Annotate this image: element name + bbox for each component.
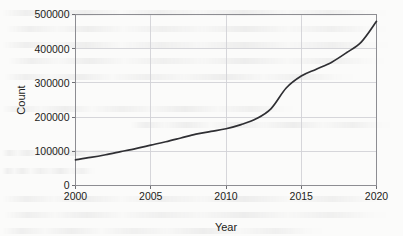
chart-canvas: 0100000200000300000400000500000 20002005… xyxy=(0,0,403,236)
x-tick-label: 2015 xyxy=(290,190,314,202)
y-tick-label: 300000 xyxy=(34,77,69,89)
y-tick-label: 400000 xyxy=(34,43,69,55)
x-tick-label: 2005 xyxy=(139,190,163,202)
y-tick-label: 500000 xyxy=(34,8,69,20)
x-axis-title: Year xyxy=(215,221,238,233)
gridlines xyxy=(76,15,377,186)
x-tick-label: 2010 xyxy=(214,190,238,202)
y-tick-label: 100000 xyxy=(34,145,69,157)
x-tick-label: 2020 xyxy=(365,190,389,202)
tick-marks xyxy=(72,15,377,190)
y-axis-tick-labels: 0100000200000300000400000500000 xyxy=(34,8,69,191)
line-chart-figure: 0100000200000300000400000500000 20002005… xyxy=(0,0,403,236)
y-axis-title: Count xyxy=(15,85,27,114)
x-axis-tick-labels: 20002005201020152020 xyxy=(64,190,389,202)
x-tick-label: 2000 xyxy=(64,190,88,202)
y-tick-label: 200000 xyxy=(34,111,69,123)
